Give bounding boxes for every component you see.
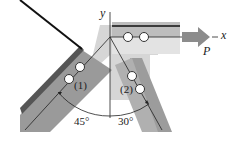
bolt [65, 75, 74, 84]
bolt [140, 33, 149, 42]
angle-45-label: 45° [74, 115, 89, 127]
bolt [128, 72, 137, 81]
angle-30-label: 30° [118, 115, 133, 127]
bolt [136, 85, 145, 94]
load-label: P [203, 44, 210, 59]
x-axis-label: x [221, 28, 226, 43]
member-2-label: (2) [120, 83, 133, 95]
y-axis-label: y [100, 6, 105, 21]
bolt [76, 63, 85, 72]
member-1-label: (1) [74, 79, 87, 91]
bolt [124, 33, 133, 42]
